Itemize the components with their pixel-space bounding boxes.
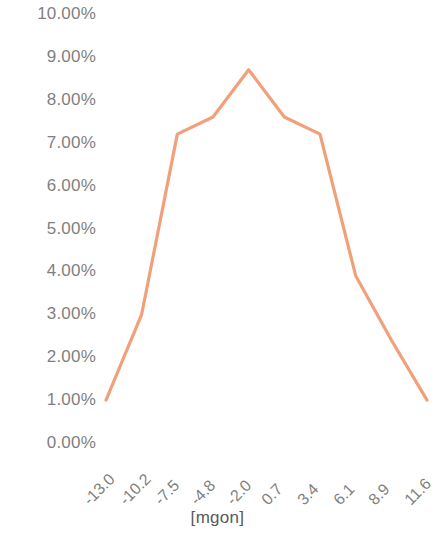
y-axis-tick-label: 2.00%: [8, 347, 96, 367]
chart-container: 10.00%9.00%8.00%7.00%6.00%5.00%4.00%3.00…: [0, 0, 435, 539]
y-axis-tick-label: 5.00%: [8, 219, 96, 239]
y-axis-tick-label: 0.00%: [8, 433, 96, 453]
y-axis-tick-label: 1.00%: [8, 390, 96, 410]
y-axis-tick-label: 7.00%: [8, 133, 96, 153]
y-axis-tick-label: 8.00%: [8, 90, 96, 110]
y-axis-tick-label: 9.00%: [8, 47, 96, 67]
x-axis-title: [mgon]: [0, 508, 435, 528]
y-axis: 10.00%9.00%8.00%7.00%6.00%5.00%4.00%3.00…: [0, 0, 96, 460]
y-axis-tick-label: 4.00%: [8, 261, 96, 281]
data-series-line: [106, 70, 427, 400]
y-axis-tick-label: 3.00%: [8, 304, 96, 324]
y-axis-tick-label: 6.00%: [8, 176, 96, 196]
y-axis-tick-label: 10.00%: [8, 4, 96, 24]
